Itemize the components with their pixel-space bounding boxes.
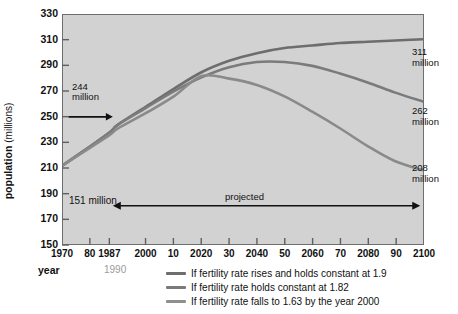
legend-label-3: If fertility rate falls to 1.63 by the y… <box>191 296 379 307</box>
y-tick-290: 290 <box>28 58 58 70</box>
legend-swatch-icon-3 <box>166 300 186 303</box>
annotation-projected-arrow-right <box>412 202 420 210</box>
y-tick-230: 230 <box>28 135 58 147</box>
y-axis-title-bold: population <box>2 146 14 200</box>
x-axis-title: year <box>38 264 60 276</box>
y-tick-310: 310 <box>28 33 58 45</box>
x-tick-2020: 2020 <box>190 248 212 259</box>
x-tick-50: 50 <box>279 248 290 259</box>
x-tick-2000: 2000 <box>134 248 156 259</box>
y-tick-270: 270 <box>28 84 58 96</box>
annotation-244-unit: million <box>72 92 99 102</box>
y-tick-190: 190 <box>28 187 58 199</box>
x-tick-70: 70 <box>335 248 346 259</box>
annotation-151-million: 151 million <box>69 196 117 207</box>
legend-item-1[interactable]: If fertility rate rises and holds consta… <box>166 266 458 280</box>
legend-item-3[interactable]: If fertility rate falls to 1.63 by the y… <box>166 294 458 308</box>
legend-label-2: If fertility rate holds constant at 1.82 <box>191 282 349 293</box>
x-tick-10: 10 <box>168 248 179 259</box>
annotation-projected: projected <box>222 192 267 202</box>
end-label-262-unit: million <box>412 117 439 128</box>
series-line-2 <box>63 62 423 166</box>
x-tick-2060: 2060 <box>301 248 323 259</box>
x-tick-2040: 2040 <box>246 248 268 259</box>
y-axis-title: population (millions) <box>2 56 14 246</box>
plot-area <box>62 14 424 245</box>
alt-year-note: 1990 <box>104 264 126 275</box>
x-tick-90: 90 <box>391 248 402 259</box>
legend-label-1: If fertility rate rises and holds consta… <box>191 268 387 279</box>
x-tick-2100: 2100 <box>413 248 435 259</box>
legend-swatch-icon-2 <box>166 286 186 289</box>
x-tick-80: 80 <box>84 248 95 259</box>
end-label-262: 262 million <box>412 106 439 127</box>
y-tick-250: 250 <box>28 110 58 122</box>
plot-canvas <box>63 15 423 244</box>
end-label-311: 311 million <box>412 47 439 68</box>
y-axis-title-unit: (millions) <box>3 103 14 143</box>
x-tick-1987: 1987 <box>98 248 120 259</box>
legend-item-2[interactable]: If fertility rate holds constant at 1.82 <box>166 280 458 294</box>
end-label-208: 208 million <box>412 163 439 184</box>
x-axis-tick-labels: 1970801987200010202030204050206070208090… <box>0 248 458 262</box>
y-tick-170: 170 <box>28 212 58 224</box>
annotation-244-arrow-head <box>106 113 113 121</box>
annotation-244-million: 244 million <box>72 82 99 103</box>
x-tick-2080: 2080 <box>357 248 379 259</box>
population-projection-chart: population (millions) 330310290270250230… <box>0 0 458 314</box>
y-tick-210: 210 <box>28 161 58 173</box>
y-tick-330: 330 <box>28 7 58 19</box>
series-line-3 <box>63 75 423 170</box>
x-tick-30: 30 <box>224 248 235 259</box>
end-label-311-unit: million <box>412 58 439 69</box>
legend: If fertility rate rises and holds consta… <box>166 266 458 308</box>
legend-swatch-icon-1 <box>166 272 186 275</box>
y-axis-title-wrap: population (millions) <box>0 60 18 250</box>
end-label-208-unit: million <box>412 174 439 185</box>
x-tick-1970: 1970 <box>51 248 73 259</box>
